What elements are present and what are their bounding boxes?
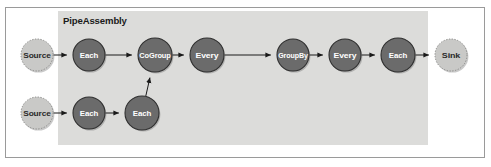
node-label: Source [23, 109, 51, 118]
pipe-assembly-group-box: PipeAssembly [58, 11, 428, 145]
node-label: Every [334, 51, 358, 60]
node-label: Each [133, 109, 152, 118]
node-label: Source [23, 51, 51, 60]
diagram-canvas: PipeAssembly SourceEachCoGroupEveryGroup… [0, 0, 491, 167]
node-label: Each [80, 109, 99, 118]
pipe-assembly-box [58, 11, 428, 145]
pipe-assembly-diagram: PipeAssembly SourceEachCoGroupEveryGroup… [0, 0, 491, 167]
node-label: GroupBy [278, 51, 308, 60]
node-label: Every [196, 51, 220, 60]
node-sink[interactable]: Sink [435, 39, 468, 73]
node-label: Each [389, 51, 408, 60]
node-label: Sink [442, 51, 461, 60]
node-source-top[interactable]: Source [21, 39, 54, 73]
node-label: CoGroup [139, 51, 171, 60]
pipe-assembly-title: PipeAssembly [63, 15, 128, 26]
node-label: Each [80, 51, 99, 60]
node-source-bot[interactable]: Source [21, 97, 54, 131]
